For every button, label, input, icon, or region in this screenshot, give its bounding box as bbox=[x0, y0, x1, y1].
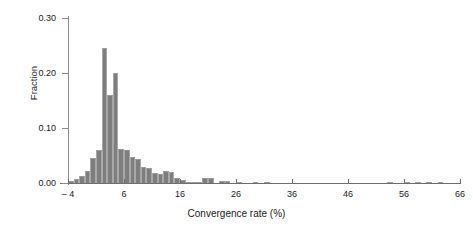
y-axis-line bbox=[68, 16, 69, 185]
histogram-bars bbox=[68, 18, 460, 183]
x-axis-tick-label: 46 bbox=[328, 190, 368, 199]
y-axis-tick-label: 0.10 bbox=[22, 124, 56, 133]
x-axis-tick bbox=[124, 179, 125, 184]
histogram-figure: 0.000.100.200.30 – 46162636465666 Fracti… bbox=[0, 0, 473, 234]
x-axis-tick bbox=[292, 179, 293, 184]
x-axis-tick-label: – 4 bbox=[48, 190, 88, 199]
x-axis-tick-label: 6 bbox=[104, 190, 144, 199]
x-axis-tick bbox=[180, 179, 181, 184]
x-axis-tick bbox=[460, 179, 461, 184]
x-axis-tick-label: 26 bbox=[216, 190, 256, 199]
x-axis-tick-label: 66 bbox=[440, 190, 473, 199]
x-axis-tick bbox=[348, 179, 349, 184]
x-axis-title: Convergence rate (%) bbox=[0, 208, 473, 219]
x-axis-tick bbox=[236, 179, 237, 184]
y-axis-tick bbox=[62, 73, 69, 74]
x-axis-tick-label: 56 bbox=[384, 190, 424, 199]
y-axis-tick bbox=[62, 128, 69, 129]
x-axis-tick bbox=[68, 179, 69, 184]
y-axis-tick bbox=[62, 18, 69, 19]
y-axis-tick-label: 0.30 bbox=[22, 14, 56, 23]
plot-area bbox=[68, 18, 460, 183]
y-axis-title: Fraction bbox=[29, 43, 39, 123]
y-axis-tick-label: 0.00 bbox=[22, 179, 56, 188]
x-axis-tick bbox=[404, 179, 405, 184]
x-axis-tick-label: 36 bbox=[272, 190, 312, 199]
x-axis-line bbox=[60, 183, 461, 184]
x-axis-tick-label: 16 bbox=[160, 190, 200, 199]
